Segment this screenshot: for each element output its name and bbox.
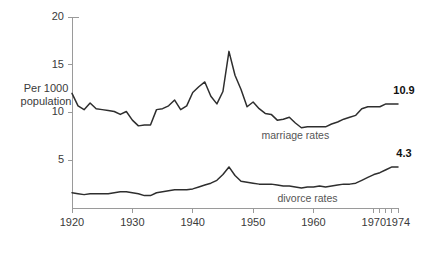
y-axis-title-line1: Per 1000 bbox=[24, 82, 69, 94]
x-axis-end-label: 1974 bbox=[386, 216, 410, 228]
series-lines bbox=[72, 51, 398, 195]
x-axis-tick-label: 1970 bbox=[362, 216, 386, 228]
x-axis-tick-label: 1960 bbox=[301, 216, 325, 228]
series-line-divorce-rates bbox=[72, 167, 398, 196]
line-chart: Per 1000 population 5101520 192019301940… bbox=[0, 0, 428, 253]
x-axis-tick-label: 1920 bbox=[60, 216, 84, 228]
series-inline-label-divorce-rates: divorce rates bbox=[277, 192, 337, 204]
x-axis-tick-label: 1930 bbox=[120, 216, 144, 228]
series-inline-label-marriage-rates: marriage rates bbox=[262, 129, 330, 141]
y-axis: 5101520 bbox=[52, 10, 79, 208]
y-axis-tick-label: 5 bbox=[58, 153, 64, 165]
series-line-marriage-rates bbox=[72, 51, 398, 127]
chart-figure: Per 1000 population 5101520 192019301940… bbox=[0, 0, 428, 253]
x-axis: 1920193019401950196019701974 bbox=[60, 208, 410, 228]
y-axis-tick-label: 10 bbox=[52, 105, 64, 117]
y-axis-tick-label: 20 bbox=[52, 10, 64, 22]
series-end-value-marriage-rates: 10.9 bbox=[393, 84, 414, 96]
y-axis-title: Per 1000 population bbox=[21, 82, 72, 107]
series-end-value-divorce-rates: 4.3 bbox=[396, 147, 411, 159]
y-axis-tick-label: 15 bbox=[52, 58, 64, 70]
x-axis-tick-label: 1940 bbox=[180, 216, 204, 228]
x-axis-tick-label: 1950 bbox=[241, 216, 265, 228]
